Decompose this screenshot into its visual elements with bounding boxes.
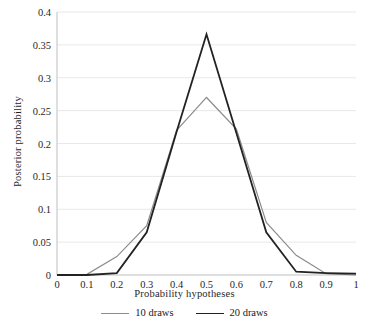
series-lines	[57, 34, 356, 275]
y-tick-label: 0.35	[11, 39, 51, 50]
y-tick-label: 0.3	[11, 72, 51, 83]
plot-area	[57, 12, 356, 275]
gridlines	[57, 12, 356, 275]
chart-legend: 10 draws20 draws	[0, 308, 369, 319]
y-tick-label: 0.05	[11, 237, 51, 248]
series-line-0	[57, 97, 356, 275]
legend-label: 20 draws	[230, 308, 268, 319]
y-tick-label: 0.25	[11, 105, 51, 116]
legend-item-1[interactable]: 20 draws	[196, 308, 268, 319]
legend-item-0[interactable]: 10 draws	[101, 308, 173, 319]
y-tick-label: 0.1	[11, 204, 51, 215]
series-line-1	[57, 34, 356, 275]
y-tick-label: 0.15	[11, 171, 51, 182]
legend-label: 10 draws	[135, 308, 173, 319]
legend-line-icon	[196, 313, 224, 314]
y-tick-label: 0.2	[11, 138, 51, 149]
plot-svg	[57, 12, 356, 275]
x-axis-title: Probability hypotheses	[0, 288, 369, 299]
chart-figure: Posterior probability 00.050.10.150.20.2…	[0, 0, 369, 329]
legend-line-icon	[101, 313, 129, 314]
y-tick-label: 0.4	[11, 7, 51, 18]
